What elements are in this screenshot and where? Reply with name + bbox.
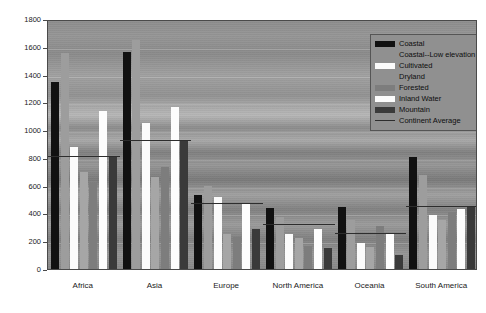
bar[interactable] bbox=[252, 229, 260, 269]
y-axis-tick: 800 bbox=[0, 159, 47, 160]
bar-group bbox=[191, 21, 263, 269]
y-axis-tick: 1200 bbox=[0, 103, 47, 104]
x-axis-tick-label: Africa bbox=[73, 281, 93, 290]
bar[interactable] bbox=[51, 82, 59, 269]
bar[interactable] bbox=[395, 255, 403, 269]
y-axis-tick: 1000 bbox=[0, 131, 47, 132]
bar[interactable] bbox=[233, 237, 241, 269]
y-axis-tick: 1400 bbox=[0, 76, 47, 77]
bar[interactable] bbox=[419, 175, 427, 269]
bar[interactable] bbox=[123, 52, 131, 269]
bar[interactable] bbox=[457, 209, 465, 269]
legend-swatch bbox=[375, 74, 395, 80]
chart-legend: CoastalCoastal--Low elevationCultivatedD… bbox=[370, 34, 477, 131]
y-axis-tick-label: 400 bbox=[28, 209, 41, 218]
legend-swatch bbox=[375, 107, 395, 113]
bar[interactable] bbox=[304, 246, 312, 269]
bar[interactable] bbox=[109, 157, 117, 269]
x-axis-tick-label: Asia bbox=[147, 281, 163, 290]
bar[interactable] bbox=[151, 177, 159, 269]
continent-average-line bbox=[335, 233, 407, 234]
bar[interactable] bbox=[99, 111, 107, 269]
bar[interactable] bbox=[223, 234, 231, 269]
y-axis-tick-label: 0 bbox=[37, 265, 41, 274]
legend-swatch bbox=[375, 63, 395, 69]
bar[interactable] bbox=[70, 147, 78, 269]
bar[interactable] bbox=[347, 220, 355, 269]
continent-average-line bbox=[263, 224, 335, 225]
legend-item-label: Dryland bbox=[399, 71, 425, 82]
bar[interactable] bbox=[438, 220, 446, 269]
legend-item-label: Coastal--Low elevation bbox=[399, 49, 475, 60]
y-axis-tick-label: 1200 bbox=[24, 98, 41, 107]
bar[interactable] bbox=[161, 167, 169, 269]
x-axis-tick-label: Europe bbox=[213, 281, 239, 290]
y-axis-tick-label: 1600 bbox=[24, 43, 41, 52]
bar[interactable] bbox=[324, 248, 332, 269]
y-axis-tick-label: 600 bbox=[28, 182, 41, 191]
legend-item-label: Inland Water bbox=[399, 93, 441, 104]
continent-average-line bbox=[191, 203, 263, 204]
y-axis-tick-label: 200 bbox=[28, 237, 41, 246]
y-axis-tick: 400 bbox=[0, 214, 47, 215]
y-axis-tick-label: 1800 bbox=[24, 15, 41, 24]
legend-item[interactable]: Coastal bbox=[375, 38, 477, 49]
y-axis-tick-mark bbox=[43, 270, 47, 271]
legend-item[interactable]: Inland Water bbox=[375, 93, 477, 104]
y-axis-tick: 0 bbox=[0, 270, 47, 271]
legend-item[interactable]: Forested bbox=[375, 82, 477, 93]
bar[interactable] bbox=[357, 243, 365, 269]
bar[interactable] bbox=[285, 234, 293, 269]
bar[interactable] bbox=[429, 215, 437, 269]
x-axis-tick-label: South America bbox=[415, 281, 467, 290]
bar[interactable] bbox=[448, 212, 456, 269]
bar[interactable] bbox=[366, 247, 374, 269]
bar[interactable] bbox=[194, 195, 202, 269]
continent-average-line bbox=[120, 140, 192, 141]
bar[interactable] bbox=[180, 141, 188, 269]
bar[interactable] bbox=[242, 204, 250, 269]
bar[interactable] bbox=[295, 238, 303, 269]
bar-group bbox=[48, 21, 120, 269]
x-axis-tick-label: Oceania bbox=[355, 281, 385, 290]
continent-average-line bbox=[406, 206, 477, 207]
legend-item[interactable]: Coastal--Low elevation bbox=[375, 49, 477, 60]
y-axis-tick: 600 bbox=[0, 187, 47, 188]
bar[interactable] bbox=[171, 107, 179, 269]
bar[interactable] bbox=[314, 229, 322, 269]
y-axis-tick: 1800 bbox=[0, 20, 47, 21]
y-axis-tick-label: 1400 bbox=[24, 71, 41, 80]
legend-swatch bbox=[375, 96, 395, 102]
legend-item-label: Coastal bbox=[399, 38, 424, 49]
bar[interactable] bbox=[266, 208, 274, 269]
legend-item[interactable]: Dryland bbox=[375, 71, 477, 82]
bar[interactable] bbox=[142, 123, 150, 269]
bar[interactable] bbox=[80, 172, 88, 269]
legend-swatch bbox=[375, 52, 395, 58]
y-axis: 020040060080010001200140016001800 bbox=[0, 20, 47, 270]
y-axis-tick-label: 1000 bbox=[24, 126, 41, 135]
bar[interactable] bbox=[386, 234, 394, 269]
legend-swatch bbox=[375, 120, 395, 121]
bar[interactable] bbox=[204, 186, 212, 269]
bar[interactable] bbox=[276, 217, 284, 269]
bar[interactable] bbox=[467, 207, 475, 269]
x-axis: AfricaAsiaEuropeNorth AmericaOceaniaSout… bbox=[47, 272, 477, 302]
bar[interactable] bbox=[61, 53, 69, 269]
legend-item[interactable]: Cultivated bbox=[375, 60, 477, 71]
x-axis-tick-label: North America bbox=[272, 281, 323, 290]
bar[interactable] bbox=[89, 183, 97, 269]
continent-average-line bbox=[48, 156, 120, 157]
bar[interactable] bbox=[409, 157, 417, 269]
legend-item-label: Cultivated bbox=[399, 60, 432, 71]
bar[interactable] bbox=[338, 207, 346, 270]
bar-group bbox=[263, 21, 335, 269]
legend-item[interactable]: Mountain bbox=[375, 104, 477, 115]
plot-area: CoastalCoastal--Low elevationCultivatedD… bbox=[47, 20, 477, 270]
bar-group bbox=[120, 21, 192, 269]
legend-item-label: Continent Average bbox=[399, 115, 461, 126]
legend-item[interactable]: Continent Average bbox=[375, 115, 477, 126]
legend-item-label: Forested bbox=[399, 82, 429, 93]
bar[interactable] bbox=[214, 197, 222, 269]
bar[interactable] bbox=[132, 40, 140, 269]
